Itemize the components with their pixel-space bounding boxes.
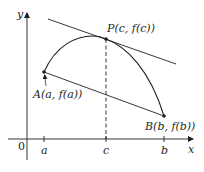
origin-label: 0	[18, 141, 25, 152]
point-p	[104, 37, 108, 41]
point-a	[42, 70, 46, 74]
point-label-p: P(c, f(c))	[107, 23, 155, 34]
tick-label-a: a	[41, 145, 48, 156]
x-axis-label: x	[188, 144, 194, 155]
y-axis-label: y	[17, 9, 23, 20]
point-label-a: A(a, f(a))	[33, 89, 82, 100]
tick-label-c: c	[103, 145, 109, 156]
point-label-b: B(b, f(b))	[145, 121, 195, 132]
point-b	[162, 114, 166, 118]
mvt-diagram	[0, 0, 204, 172]
pointer-arrow-icon	[45, 75, 46, 86]
tick-label-b: b	[161, 145, 168, 156]
curve-f	[44, 36, 164, 116]
